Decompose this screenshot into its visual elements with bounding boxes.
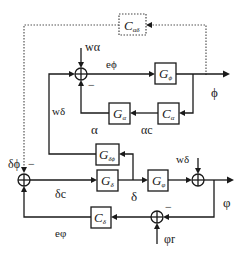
w-alpha-arrow bbox=[78, 62, 84, 68]
phi-output-arrow bbox=[223, 71, 230, 78]
arrow-into-c-alpha-delta bbox=[146, 22, 152, 28]
signal-w-delta-right: wδ bbox=[176, 153, 189, 165]
sign-minus-top: − bbox=[88, 78, 95, 92]
signal-w-delta-left: wδ bbox=[52, 105, 65, 117]
varphi-feedback-line bbox=[167, 180, 214, 217]
arrow-into-g-varphi bbox=[142, 177, 148, 183]
varphi-output-arrow bbox=[227, 177, 234, 184]
arrow-into-left-sum-bottom bbox=[21, 186, 27, 192]
signal-e-varphi: eφ bbox=[55, 227, 66, 239]
signal-alpha-c: αc bbox=[141, 123, 153, 137]
arrow-into-right-sum bbox=[186, 177, 192, 183]
arrow-into-c-alpha bbox=[179, 110, 185, 116]
alpha-feedback-line bbox=[81, 84, 109, 113]
arrow-into-g-alpha bbox=[130, 110, 136, 116]
signal-alpha: α bbox=[91, 122, 98, 137]
signal-delta-c: δc bbox=[55, 187, 66, 201]
delta-to-g-delta-phi-line bbox=[123, 154, 133, 180]
arrow-into-left-sum bbox=[21, 167, 27, 173]
signal-w-alpha: wα bbox=[85, 40, 101, 54]
signal-delta-phi: δϕ bbox=[8, 157, 20, 171]
signal-e-phi: eϕ bbox=[106, 58, 117, 70]
phi-to-c-alpha-line bbox=[183, 74, 193, 113]
sign-minus-bottom: − bbox=[165, 200, 172, 214]
block-diagram: Cαδ Gϕ Cα Gα Gδϕ Gδ Gφ Cδ wα eϕ ϕ wδ α α… bbox=[0, 0, 243, 260]
arrow-into-c-delta bbox=[111, 214, 117, 220]
varphi-r-arrow bbox=[154, 223, 160, 229]
alpha-feedback-arrow bbox=[78, 80, 84, 86]
signal-varphi-r: φr bbox=[164, 232, 175, 246]
signal-varphi: φ bbox=[223, 195, 231, 210]
sign-minus-left: − bbox=[28, 157, 35, 171]
signal-delta: δ bbox=[131, 189, 137, 204]
e-phi-arrow bbox=[149, 71, 155, 77]
arrow-into-top-sum-left bbox=[69, 71, 75, 77]
arrow-into-bottom-sum bbox=[163, 214, 169, 220]
signal-phi: ϕ bbox=[211, 85, 218, 100]
arrow-into-g-delta-phi bbox=[119, 151, 125, 157]
arrow-into-g-delta bbox=[91, 177, 97, 183]
w-delta-right-arrow bbox=[195, 168, 201, 174]
